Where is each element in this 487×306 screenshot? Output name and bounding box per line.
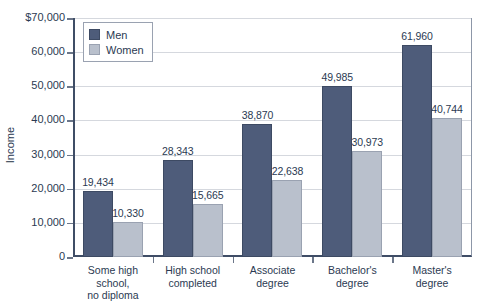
x-category-label-line: degree bbox=[312, 277, 392, 290]
bar-value-label: 40,744 bbox=[419, 103, 475, 115]
x-category-label-line: Associate bbox=[233, 264, 313, 277]
y-tick-label: $70,000 bbox=[5, 11, 65, 23]
x-category-label-line: degree bbox=[233, 277, 313, 290]
x-category-label-line: school, bbox=[73, 277, 153, 290]
x-category-label: High schoolcompleted bbox=[153, 264, 233, 289]
bar-value-label: 28,343 bbox=[150, 145, 206, 157]
legend-label-women: Women bbox=[106, 44, 144, 56]
bar-men[interactable] bbox=[83, 191, 113, 257]
bar-value-label: 15,665 bbox=[180, 189, 236, 201]
bar-group bbox=[392, 18, 472, 257]
x-tick-mark bbox=[392, 257, 394, 263]
y-tick-label: 40,000 bbox=[5, 113, 65, 125]
y-tick-mark bbox=[67, 257, 73, 259]
legend-label-men: Men bbox=[106, 29, 127, 41]
x-category-label: Bachelor'sdegree bbox=[312, 264, 392, 289]
bar-women[interactable] bbox=[272, 180, 302, 257]
bar-value-label: 61,960 bbox=[389, 30, 445, 42]
bar-women[interactable] bbox=[432, 118, 462, 257]
bar-group bbox=[153, 18, 233, 257]
bar-men[interactable] bbox=[163, 160, 193, 257]
bar-men[interactable] bbox=[322, 86, 352, 257]
bar-value-label: 19,434 bbox=[70, 176, 126, 188]
bar-value-label: 49,985 bbox=[309, 71, 365, 83]
x-category-label-line: completed bbox=[153, 277, 233, 290]
y-tick-label: 0 bbox=[5, 250, 65, 262]
x-category-label-line: no diploma bbox=[73, 289, 153, 302]
legend-item-men[interactable]: Men bbox=[89, 27, 144, 42]
y-tick-label: 20,000 bbox=[5, 182, 65, 194]
y-tick-label: 30,000 bbox=[5, 148, 65, 160]
legend-swatch-men-icon bbox=[89, 29, 100, 40]
y-tick-label: 60,000 bbox=[5, 45, 65, 57]
x-category-label-line: degree bbox=[392, 277, 472, 290]
x-tick-mark bbox=[312, 257, 314, 263]
x-category-label: Some highschool,no diploma bbox=[73, 264, 153, 302]
bar-men[interactable] bbox=[402, 45, 432, 257]
x-category-label-line: Bachelor's bbox=[312, 264, 392, 277]
legend-swatch-women-icon bbox=[89, 44, 100, 55]
bar-value-label: 22,638 bbox=[260, 165, 316, 177]
x-category-label-line: High school bbox=[153, 264, 233, 277]
x-tick-mark bbox=[153, 257, 155, 263]
x-category-label: Associatedegree bbox=[233, 264, 313, 289]
bar-value-label: 30,973 bbox=[339, 136, 395, 148]
x-category-label-line: Some high bbox=[73, 264, 153, 277]
bar-men[interactable] bbox=[242, 124, 272, 257]
bar-women[interactable] bbox=[113, 222, 143, 257]
bar-value-label: 10,330 bbox=[100, 207, 156, 219]
bar-women[interactable] bbox=[352, 151, 382, 257]
bar-group bbox=[233, 18, 313, 257]
chart-legend: Men Women bbox=[83, 22, 153, 62]
bar-value-label: 38,870 bbox=[230, 109, 286, 121]
income-by-education-bar-chart: Income 010,00020,00030,00040,00050,00060… bbox=[0, 0, 487, 306]
legend-item-women[interactable]: Women bbox=[89, 42, 144, 57]
x-category-label-line: Master's bbox=[392, 264, 472, 277]
x-category-label: Master'sdegree bbox=[392, 264, 472, 289]
y-tick-label: 50,000 bbox=[5, 79, 65, 91]
x-tick-mark bbox=[233, 257, 235, 263]
bar-women[interactable] bbox=[193, 204, 223, 257]
y-tick-label: 10,000 bbox=[5, 216, 65, 228]
